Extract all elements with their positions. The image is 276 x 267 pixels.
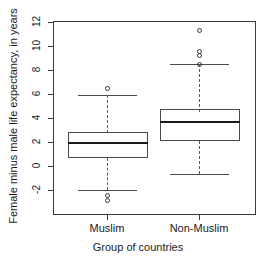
boxplot-figure: Female minus male life expectancy, in ye… xyxy=(0,0,276,267)
y-axis-title: Female minus male life expectancy, in ye… xyxy=(4,8,22,223)
y-tick-label-0: 0 xyxy=(31,156,42,176)
x-tick-label-muslim: Muslim xyxy=(67,222,147,234)
y-tick-label-12: 12 xyxy=(31,12,42,32)
y-tick-label-2: 2 xyxy=(31,132,42,152)
plot-frame xyxy=(53,21,256,215)
y-axis-title-text: Female minus male life expectancy, in ye… xyxy=(7,8,19,224)
x-tick-mark-nonmuslim xyxy=(199,215,200,220)
y-tick-label-4: 4 xyxy=(31,108,42,128)
y-tick-label-10: 10 xyxy=(31,36,42,56)
y-tick-label-6: 6 xyxy=(31,84,42,104)
x-tick-label-nonmuslim: Non-Muslim xyxy=(159,222,239,234)
y-tick-label-8: 8 xyxy=(31,60,42,80)
x-tick-mark-muslim xyxy=(107,215,108,220)
x-axis-title: Group of countries xyxy=(0,241,276,253)
y-tick-label-neg2: -2 xyxy=(31,180,42,200)
